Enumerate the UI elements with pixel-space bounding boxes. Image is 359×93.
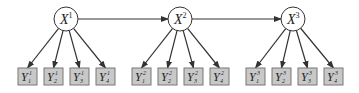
nodes: X1X2X3Y11Y12Y13Y14Y21Y22Y23Y24Y31Y32Y33Y…: [18, 7, 343, 85]
observed-node-y1_1: Y11: [18, 68, 37, 85]
svg-text:3: 3: [256, 70, 260, 76]
svg-text:1: 1: [81, 70, 84, 76]
observed-node-y2_3: Y32: [272, 68, 291, 85]
observed-node-y4_1: Y14: [96, 68, 115, 85]
svg-text:2: 2: [195, 70, 198, 76]
svg-text:4: 4: [334, 78, 337, 84]
loading-edge: [28, 28, 59, 68]
svg-text:2: 2: [169, 70, 172, 76]
observed-node-y4_2: Y24: [210, 68, 229, 85]
svg-text:2: 2: [54, 78, 57, 84]
svg-text:1: 1: [29, 70, 32, 76]
svg-text:1: 1: [256, 78, 259, 84]
observed-node-y3_3: Y33: [298, 68, 317, 85]
svg-text:2: 2: [221, 70, 224, 76]
path-diagram: X1X2X3Y11Y12Y13Y14Y21Y22Y23Y24Y31Y32Y33Y…: [0, 0, 359, 93]
loading-edge: [256, 29, 286, 68]
svg-text:2: 2: [168, 78, 171, 84]
observed-node-y3_1: Y13: [70, 68, 89, 85]
svg-text:3: 3: [193, 78, 197, 84]
svg-text:2: 2: [143, 70, 146, 76]
latent-node-x1: X1: [54, 7, 78, 31]
svg-text:3: 3: [282, 70, 286, 76]
observed-node-y3_2: Y23: [184, 68, 203, 85]
latent-node-x2: X2: [168, 7, 192, 31]
svg-text:3: 3: [334, 70, 338, 76]
latent-node-x3: X3: [281, 7, 305, 31]
observed-node-y4_3: Y34: [324, 68, 343, 85]
svg-text:1: 1: [142, 78, 145, 84]
observed-node-y1_3: Y31: [246, 68, 265, 85]
loading-edge: [54, 31, 64, 68]
observed-node-y2_2: Y22: [158, 68, 177, 85]
loading-edge: [142, 28, 173, 68]
loading-edge: [282, 31, 291, 68]
svg-text:4: 4: [220, 78, 223, 84]
observed-node-y1_2: Y21: [132, 68, 151, 85]
svg-text:3: 3: [307, 78, 311, 84]
svg-text:3: 3: [308, 70, 312, 76]
loading-edge: [69, 31, 79, 68]
svg-text:1: 1: [28, 78, 31, 84]
svg-text:2: 2: [282, 78, 285, 84]
observed-node-y2_1: Y12: [44, 68, 63, 85]
svg-text:1: 1: [107, 70, 110, 76]
svg-text:3: 3: [79, 78, 83, 84]
loading-edge: [168, 31, 178, 68]
svg-text:4: 4: [106, 78, 109, 84]
loading-edge: [183, 31, 193, 68]
svg-text:1: 1: [55, 70, 58, 76]
loading-edge: [296, 31, 307, 68]
